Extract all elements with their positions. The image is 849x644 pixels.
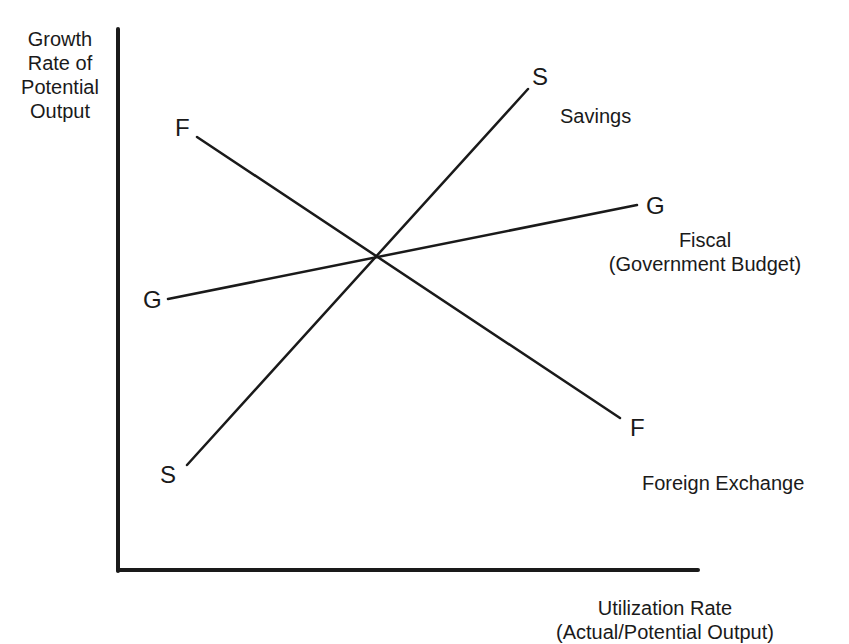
- foreign-exchange-curve: [197, 137, 620, 418]
- fiscal-end-label: G: [646, 193, 665, 219]
- x-axis-label-line: Utilization Rate: [500, 596, 830, 620]
- savings-start-label: S: [160, 462, 176, 488]
- fiscal-curve-name: Fiscal (Government Budget): [580, 228, 830, 276]
- fiscal-curve: [168, 205, 637, 299]
- y-axis-label-line: Potential: [10, 75, 110, 99]
- fiscal-curve-name-line: (Government Budget): [580, 252, 830, 276]
- foreign-exchange-end-label: F: [630, 415, 645, 441]
- y-axis-label-line: Output: [10, 99, 110, 123]
- x-axis-label-line: (Actual/Potential Output): [500, 620, 830, 644]
- fiscal-start-label: G: [143, 287, 162, 313]
- savings-end-label: S: [532, 64, 548, 90]
- foreign-exchange-start-label: F: [175, 115, 190, 141]
- x-axis-label: Utilization Rate (Actual/Potential Outpu…: [500, 596, 830, 644]
- savings-curve-name: Savings: [560, 104, 631, 128]
- y-axis-label-line: Growth: [10, 27, 110, 51]
- fiscal-curve-name-line: Fiscal: [580, 228, 830, 252]
- y-axis-label-line: Rate of: [10, 51, 110, 75]
- y-axis-label: Growth Rate of Potential Output: [10, 27, 110, 123]
- foreign-exchange-curve-name: Foreign Exchange: [642, 471, 804, 495]
- savings-curve: [187, 89, 528, 465]
